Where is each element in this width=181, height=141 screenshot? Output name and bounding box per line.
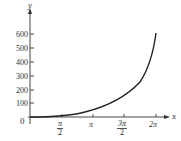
y-tick-label-400: 400 — [16, 58, 28, 67]
data-curve — [30, 33, 156, 117]
x-axis-arrow-icon — [164, 115, 170, 119]
y-tick-label-200: 200 — [16, 86, 28, 95]
x-tick-label-pi-over-2: π 2 — [57, 120, 63, 137]
x-axis-label: x — [172, 112, 176, 121]
y-axis-label: y — [28, 1, 32, 10]
y-tick-label-100: 100 — [16, 99, 28, 108]
y-tick-label-300: 300 — [16, 72, 28, 81]
x-tick-label-3pi-over-2: 3π 2 — [117, 120, 127, 137]
origin-label: 0 — [20, 117, 25, 126]
x-tick-label-pi: π — [89, 120, 93, 129]
x-tick-label-2pi: 2π — [149, 120, 157, 129]
y-tick-label-600: 600 — [16, 30, 28, 39]
y-ticks — [30, 34, 34, 103]
y-tick-label-500: 500 — [16, 44, 28, 53]
